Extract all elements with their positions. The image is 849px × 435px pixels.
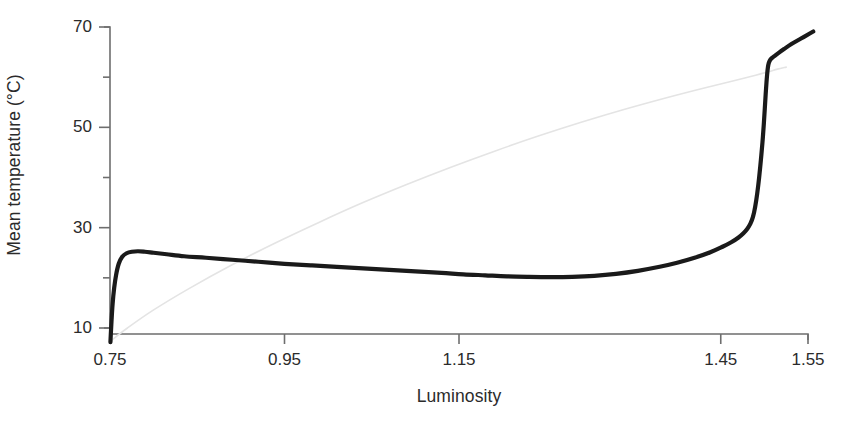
x-tick-label: 0.95 [268,350,301,370]
x-tick-label: 1.55 [791,350,824,370]
y-axis-title: Mean temperature (°C) [4,0,34,345]
x-tick-label: 0.75 [93,350,126,370]
mean-temperature-line [110,32,813,343]
reference-trend-line [112,67,786,340]
y-axis-ticks [99,27,110,328]
x-axis-ticks [110,334,808,344]
x-tick-label: 1.45 [704,350,737,370]
axes-group [99,27,808,344]
y-tick-label: 50 [40,117,92,137]
y-tick-label: 70 [40,17,92,37]
chart-figure: 70503010 0.750.951.151.451.55 Mean tempe… [0,0,849,435]
data-series-group [110,32,813,343]
x-tick-label: 1.15 [442,350,475,370]
y-tick-label: 10 [40,318,92,338]
y-tick-label: 30 [40,218,92,238]
x-axis-title: Luminosity [0,386,849,407]
